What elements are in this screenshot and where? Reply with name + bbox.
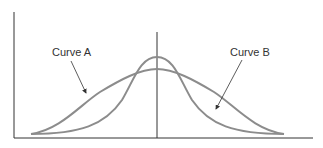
curve-a-label: Curve A xyxy=(52,46,91,58)
diagram-svg xyxy=(0,0,323,148)
bell-curve-diagram: Curve A Curve B xyxy=(0,0,323,148)
curve-a-arrow xyxy=(71,61,86,93)
curve-b-label: Curve B xyxy=(230,46,270,58)
curve-b-arrow xyxy=(216,60,242,109)
